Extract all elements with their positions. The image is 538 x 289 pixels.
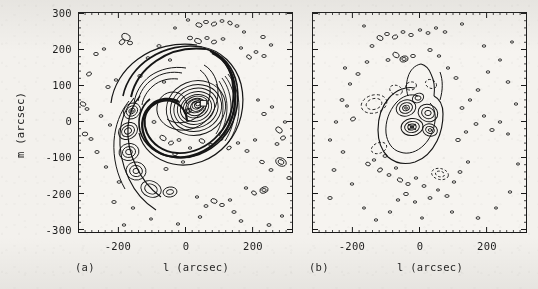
y-tick-label-m200: -200 [30,188,72,200]
panel-a-xaxis-label: l (arcsec) [126,261,266,273]
panel-a-xtick-label-m200: -200 [93,240,143,252]
y-tick-label-200: 200 [30,43,72,55]
panel-b: -200 0 200 (b) l (arcsec) [312,12,527,233]
y-axis-label: m (arcsec) [14,92,26,158]
y-tick-label-m300: -300 [30,224,72,236]
panel-b-noise [328,23,520,221]
panel-a-plot [78,12,293,233]
panel-a-caption: (a) [75,261,95,273]
panel-b-plot [312,12,527,233]
panel-b-xtick-label-m200: -200 [327,240,377,252]
panel-a-xtick-label-0: 0 [161,240,211,252]
panel-a-contours [111,44,243,210]
panel-b-ticks [312,12,527,233]
y-tick-label-300: 300 [30,7,72,19]
y-tick-label-100: 100 [30,79,72,91]
panel-b-xtick-label-200: 200 [462,240,512,252]
panel-b-caption: (b) [309,261,329,273]
y-tick-label-0: 0 [30,115,72,127]
y-tick-label-m100: -100 [30,151,72,163]
panel-b-contours [359,64,449,181]
panel-b-xtick-label-0: 0 [395,240,445,252]
panel-a-xtick-label-200: 200 [228,240,278,252]
panel-b-xaxis-label: l (arcsec) [360,261,500,273]
panel-a: -200 0 200 (a) l (arcsec) [78,12,293,233]
figure-canvas: m (arcsec) 300 200 100 0 -100 -200 -300 [0,0,538,289]
